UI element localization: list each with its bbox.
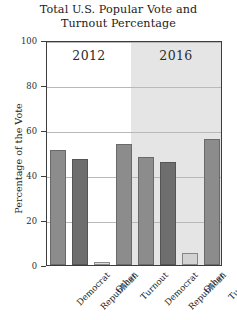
x-tick-label-2016-turnout: Turnout: [226, 270, 237, 302]
y-axis-title: Percentage of the Vote: [13, 79, 24, 239]
gridline-100: [47, 42, 221, 43]
x-axis: DemocratRepublicanOtherTurnoutDemocratRe…: [0, 266, 237, 320]
bar-2012-republican: [72, 159, 88, 265]
facet-label-2016: 2016: [131, 48, 221, 63]
bar-2016-turnout: [204, 139, 220, 265]
gridline-60: [47, 132, 221, 133]
bar-2016-other: [182, 253, 198, 265]
gridline-80: [47, 87, 221, 88]
facet-label-2012: 2012: [47, 48, 131, 63]
plot-area: 2012 2016: [46, 41, 222, 266]
bar-2012-turnout: [116, 144, 132, 266]
bar-2012-other: [94, 262, 110, 265]
bar-2016-republican: [160, 162, 176, 266]
y-tick-label-100: 100: [1, 36, 37, 46]
bar-2016-democrat: [138, 157, 154, 265]
bar-2012-democrat: [50, 150, 66, 265]
